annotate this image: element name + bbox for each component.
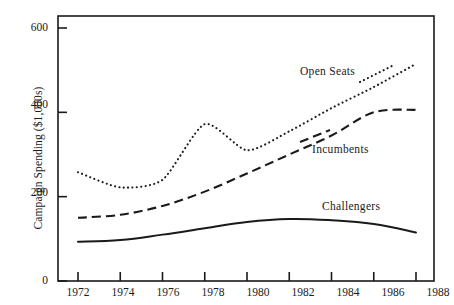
- x-tick-label-1982: 1982: [281, 286, 325, 298]
- series-label-incumbents: Incumbents: [312, 143, 369, 155]
- x-tick-label-1984: 1984: [326, 286, 370, 298]
- x-tick-label-1986: 1986: [371, 286, 415, 298]
- x-tick-label-1980: 1980: [236, 286, 280, 298]
- x-tick-label-1988: 1988: [416, 286, 454, 298]
- connector-incumbents: [300, 130, 330, 142]
- x-tick-label-1976: 1976: [146, 286, 190, 298]
- series-line-open-seats: [78, 64, 416, 188]
- scan-artifact-text: · · · · · · · · ·: [14, 0, 89, 5]
- x-tick-label-1972: 1972: [56, 286, 100, 298]
- y-tick-label-600: 600: [14, 21, 48, 33]
- y-axis-title: Campaign Spending ($1,000s): [32, 58, 44, 258]
- y-tick-label-0: 0: [14, 274, 48, 286]
- y-tick-label-200: 200: [14, 186, 48, 198]
- series-line-challengers: [78, 219, 416, 242]
- x-tick-label-1978: 1978: [191, 286, 235, 298]
- x-tick-label-1974: 1974: [101, 286, 145, 298]
- scan-artifact: · · · · · · · · ·: [0, 0, 444, 7]
- series-label-challengers: Challengers: [322, 200, 380, 212]
- connector-open-seats: [360, 66, 392, 82]
- y-tick-label-400: 400: [14, 98, 48, 110]
- series-label-open-seats: Open Seats: [300, 65, 355, 77]
- x-axis-ticks: [78, 272, 416, 281]
- y-axis-ticks: [58, 28, 67, 281]
